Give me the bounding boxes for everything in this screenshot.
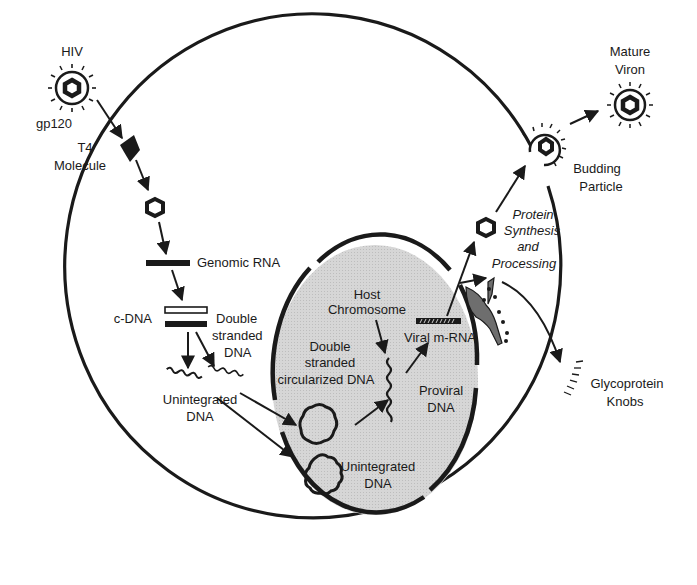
cdna-strand [165, 307, 207, 313]
protein-core-icon [478, 219, 494, 236]
unintegrated-dna-nuc-label-1: Unintegrated [341, 459, 415, 474]
glycoprotein-label-1: Glycoprotein [591, 376, 664, 391]
mature-label-1: Mature [610, 44, 650, 59]
hiv-label: HIV [61, 44, 83, 59]
host-label: Host [354, 287, 381, 302]
viral-core-icon [147, 199, 163, 216]
linear-dna-icon-2 [208, 365, 244, 376]
glycoprotein-label-2: Knobs [607, 394, 644, 409]
viral-mrna-label: Viral m-RNA [404, 330, 476, 345]
molecule-label: Molecule [54, 158, 106, 173]
chromosome-label: Chromosome [328, 302, 406, 317]
proviral-label-2: DNA [427, 400, 455, 415]
gp120-label: gp120 [36, 116, 72, 131]
genomic-rna-label: Genomic RNA [197, 255, 280, 270]
ds-dna-label-3: DNA [224, 345, 252, 360]
protein-label-2: Synthesis [504, 223, 561, 238]
proviral-label-1: Proviral [419, 383, 463, 398]
ds-dna-label-2: stranded [212, 328, 263, 343]
ds-circ-label-1: Double [309, 339, 350, 354]
ds-dna-label-1: Double [216, 311, 257, 326]
t4-label: T4 [77, 140, 92, 155]
budding-label-1: Budding [573, 161, 621, 176]
ds-circ-label-2: stranded [305, 355, 356, 370]
unintegrated-dna-nuc-label-2: DNA [364, 476, 392, 491]
protein-label-1: Protein [512, 207, 553, 222]
cdna-label: c-DNA [114, 311, 153, 326]
linear-dna-icon [166, 367, 202, 378]
hiv-lifecycle-diagram: HIV gp120 T4 Molecule Genomic RNA c-DNA … [0, 0, 697, 585]
viral-mrna-bar [416, 318, 461, 324]
genomic-rna-bar [146, 260, 190, 266]
mature-label-2: Viron [615, 62, 645, 77]
dsdna-strand [165, 321, 207, 327]
hiv-virion-icon [48, 64, 96, 112]
protein-label-3: and [517, 239, 539, 254]
protein-label-4: Processing [492, 256, 557, 271]
glycoprotein-knobs-icon [564, 361, 583, 395]
ds-circ-label-3: circularized DNA [278, 372, 375, 387]
budding-label-2: Particle [579, 179, 622, 194]
mature-virion-icon [607, 82, 653, 128]
t4-receptor-icon [120, 135, 140, 162]
unintegrated-dna-cyto-label-2: DNA [186, 409, 214, 424]
